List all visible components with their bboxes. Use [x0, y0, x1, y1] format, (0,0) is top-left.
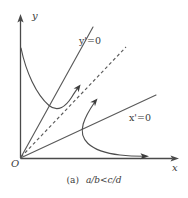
- lower-trajectory: [82, 99, 149, 160]
- y-nullcline-label: y'=0: [79, 36, 101, 46]
- caption-relation: a/b<c/d: [86, 175, 122, 185]
- figure-caption: (a)a/b<c/d: [0, 175, 188, 185]
- x-nullcline-line: [21, 95, 157, 158]
- y-axis: [17, 14, 23, 158]
- phase-plane-diagram: [0, 0, 188, 198]
- upper-trajectory: [21, 48, 81, 109]
- separatrix: [21, 47, 126, 157]
- origin-label: O: [11, 159, 19, 169]
- figure-container: y x O y'=0 x'=0 (a)a/b<c/d: [0, 0, 188, 198]
- lower-trajectory-upper-arrowhead: [90, 99, 97, 107]
- x-nullcline-label: x'=0: [129, 113, 151, 123]
- x-nullcline: [21, 95, 157, 158]
- y-axis-label: y: [32, 11, 38, 21]
- separatrix-line: [21, 47, 126, 157]
- x-axis-label: x: [172, 163, 178, 173]
- lower-trajectory-curve: [82, 103, 143, 157]
- x-axis: [21, 155, 180, 161]
- upper-trajectory-arrowhead: [74, 84, 81, 92]
- upper-trajectory-curve: [21, 48, 78, 109]
- caption-tag: (a): [67, 175, 79, 185]
